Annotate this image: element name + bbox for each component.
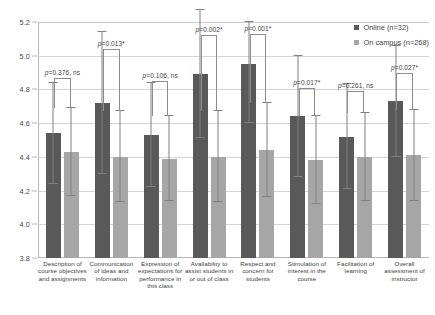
significance-label: p=0.017* <box>293 79 320 86</box>
legend-swatch-icon <box>354 40 359 45</box>
y-axis-tick-mark <box>32 22 37 23</box>
y-axis-tick-label: 3.8 <box>0 254 30 263</box>
significance-label: p=0.106, ns <box>143 72 178 79</box>
legend-item-label: On campus (n=268) <box>363 39 429 47</box>
x-axis-category-label: Communication of ideas and information <box>87 260 136 282</box>
legend-item[interactable]: On campus (n=268) <box>354 39 429 47</box>
y-axis-tick-mark <box>32 190 37 191</box>
x-axis-category-label: Stimulation of interest in the course <box>282 260 331 282</box>
y-axis-tick-label: 5.2 <box>0 18 30 27</box>
significance-label: p=0.027* <box>391 64 418 71</box>
legend-swatch-icon <box>354 25 359 30</box>
legend-item-label: Online (n=32) <box>363 24 408 32</box>
significance-label: p=0.376, ns <box>45 69 80 76</box>
y-axis-tick-mark <box>32 89 37 90</box>
significance-bracket <box>396 73 413 110</box>
y-axis-tick-label: 4.0 <box>0 220 30 229</box>
significance-label: p=0.013* <box>98 40 125 47</box>
y-axis-tick-mark <box>32 258 37 259</box>
significance-bracket <box>54 78 71 108</box>
y-axis-tick-mark <box>32 55 37 56</box>
bar-chart: 5.25.04.84.64.44.24.03.8 p=0.376, nsp=0.… <box>0 0 435 315</box>
x-axis-category-label: Description of course objectives and ass… <box>38 260 87 282</box>
significance-bracket <box>299 88 316 117</box>
x-axis-category-label: Facilitation of learning <box>331 260 380 275</box>
significance-label: p=0.002* <box>196 26 223 33</box>
y-axis-tick-label: 5.0 <box>0 51 30 60</box>
legend-item[interactable]: Online (n=32) <box>354 24 429 32</box>
x-axis-category-label: Overall assessment of instructor <box>380 260 429 282</box>
significance-bracket <box>347 91 364 113</box>
error-bar-cap-top <box>196 9 205 10</box>
significance-annotations: p=0.376, nsp=0.013*p=0.106, nsp=0.002*p=… <box>38 22 429 258</box>
y-axis-tick-label: 4.8 <box>0 85 30 94</box>
significance-bracket <box>250 34 267 103</box>
significance-label: p=0.261, ns <box>338 82 373 89</box>
significance-bracket <box>201 35 218 111</box>
significance-bracket <box>103 49 120 111</box>
y-axis: 5.25.04.84.64.44.24.03.8 <box>0 22 34 258</box>
y-axis-tick-mark <box>32 224 37 225</box>
x-axis-category-label: Expression of expectations for performan… <box>136 260 185 290</box>
y-axis-tick-mark <box>32 156 37 157</box>
y-axis-tick-mark <box>32 123 37 124</box>
significance-bracket <box>152 81 169 116</box>
y-axis-tick-label: 4.4 <box>0 152 30 161</box>
significance-label: p=0.001* <box>244 25 271 32</box>
x-axis-labels: Description of course objectives and ass… <box>38 260 429 315</box>
y-axis-tick-label: 4.2 <box>0 186 30 195</box>
legend: Online (n=32)On campus (n=268) <box>354 24 429 54</box>
x-axis-category-label: Respect and concern for students <box>234 260 283 282</box>
y-axis-tick-label: 4.6 <box>0 119 30 128</box>
x-axis-category-label: Availability to assist students in or ou… <box>185 260 234 282</box>
